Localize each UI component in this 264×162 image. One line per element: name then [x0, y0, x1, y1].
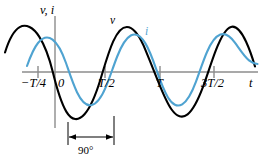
waveform-figure: v, i t −T/4 0 T/2 T 3T/2 v i 90° [0, 0, 264, 162]
y-axis-label: v, i [40, 4, 54, 17]
phase-shift-label: 90° [78, 145, 93, 156]
voltage-curve-label: v [110, 15, 115, 27]
phase-annotation-lines [68, 116, 114, 145]
x-axis-label: t [249, 77, 252, 90]
tick-label-3T-over-2: 3T/2 [201, 77, 224, 90]
tick-label-minus-T-over-4: −T/4 [21, 77, 46, 90]
tick-label-T: T [156, 77, 163, 90]
current-curve-label: i [145, 26, 148, 38]
tick-label-T-over-2: T/2 [98, 77, 115, 90]
phase-annotation-arrow [69, 134, 113, 140]
tick-label-origin: 0 [58, 77, 64, 90]
